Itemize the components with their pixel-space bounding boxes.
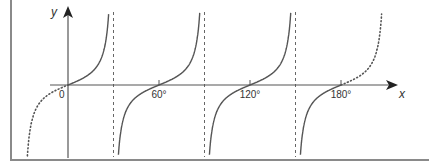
x-tick-label: 180° [331,89,352,100]
x-tick-label: 120° [240,89,261,100]
origin-label: 0 [59,89,65,100]
y-axis-label: y [50,5,58,19]
curve-extension-dotted [341,14,382,85]
curve-branch [68,14,109,85]
x-axis-label: x [398,87,406,101]
x-ticks: 60°120°180° [151,80,351,100]
x-tick-label: 60° [151,89,166,100]
